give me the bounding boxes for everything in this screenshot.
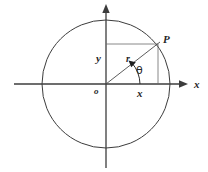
y-axis-arrowhead [102, 4, 109, 13]
x-axis-label: x [194, 79, 200, 90]
diagram-canvas [0, 0, 208, 172]
horizontal-leg-label: x [137, 88, 143, 99]
origin-label: o [94, 87, 99, 96]
point-p-label: P [163, 34, 170, 45]
x-axis-arrowhead [179, 80, 188, 87]
angle-theta-label: θ [136, 65, 143, 76]
radius-label: r [126, 54, 130, 64]
vertical-leg-label: y [96, 53, 101, 64]
polar-coordinate-diagram: P x y r θ o x [0, 0, 208, 172]
